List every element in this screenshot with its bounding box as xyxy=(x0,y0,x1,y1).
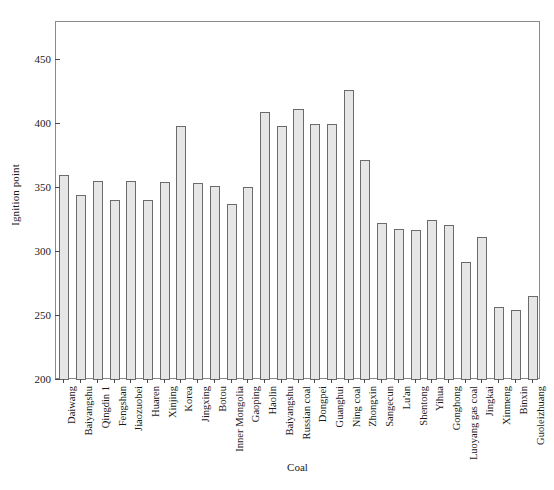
x-tick-mark xyxy=(481,379,482,383)
y-tick-mark xyxy=(55,187,60,188)
x-tick-mark xyxy=(515,379,516,383)
x-tick-mark xyxy=(398,379,399,383)
bar xyxy=(461,262,471,380)
x-tick-mark xyxy=(214,379,215,383)
bar xyxy=(93,181,103,380)
y-tick-label: 350 xyxy=(17,182,51,193)
bar xyxy=(193,183,203,380)
bar xyxy=(227,204,237,380)
x-tick-label: Russian coal xyxy=(302,386,313,439)
bar xyxy=(494,307,504,380)
x-tick-label: Daiwang xyxy=(67,386,78,424)
x-tick-label: Inner Mongolia xyxy=(235,386,246,452)
x-tick-label: Fengshan xyxy=(118,386,129,426)
bar xyxy=(210,186,220,380)
bar xyxy=(160,182,170,380)
y-tick-mark xyxy=(55,251,60,252)
x-tick-label: Xinjing xyxy=(168,386,179,418)
x-tick-label: Qingdin 1 xyxy=(101,386,112,428)
bar xyxy=(477,237,487,380)
y-tick-label: 450 xyxy=(17,54,51,65)
x-tick-mark xyxy=(415,379,416,383)
x-tick-mark xyxy=(448,379,449,383)
x-tick-mark xyxy=(130,379,131,383)
x-axis-title-text: Coal xyxy=(287,461,308,473)
bars-layer xyxy=(56,22,541,380)
x-tick-label: Botou xyxy=(218,386,229,412)
x-tick-label: Shentong xyxy=(419,386,430,426)
x-tick-label: Guanghui xyxy=(335,386,346,427)
x-axis-title: Coal xyxy=(55,461,540,473)
x-tick-mark xyxy=(298,379,299,383)
x-tick-mark xyxy=(348,379,349,383)
x-tick-label: Yihua xyxy=(435,386,446,411)
x-tick-label: Haolin xyxy=(268,386,279,415)
x-tick-label: Baiyangshu xyxy=(285,386,296,436)
bar xyxy=(528,296,538,380)
y-tick-mark xyxy=(55,123,60,124)
bar xyxy=(176,126,186,380)
bar xyxy=(143,200,153,380)
x-tick-mark xyxy=(331,379,332,383)
y-tick-mark xyxy=(55,379,60,380)
x-tick-label: Gonghong xyxy=(452,386,463,430)
x-tick-mark xyxy=(231,379,232,383)
bar-chart: Ignition point 200250300350400450 Daiwan… xyxy=(0,0,554,490)
y-tick-label: 400 xyxy=(17,118,51,129)
x-tick-label: Lu'an xyxy=(402,386,413,409)
bar xyxy=(511,310,521,380)
bar xyxy=(327,124,337,380)
bar xyxy=(260,112,270,381)
x-tick-label: Korea xyxy=(184,386,195,412)
x-tick-mark xyxy=(498,379,499,383)
bar xyxy=(243,187,253,380)
x-tick-label: Zhongxin xyxy=(368,386,379,427)
y-tick-mark xyxy=(55,59,60,60)
y-tick-label: 250 xyxy=(17,310,51,321)
x-tick-mark xyxy=(364,379,365,383)
y-tick-label: 200 xyxy=(17,374,51,385)
bar xyxy=(277,126,287,380)
x-tick-label: Jingkai xyxy=(485,386,496,416)
x-tick-label: Jiaozuobei xyxy=(134,386,145,431)
bar xyxy=(76,195,86,380)
x-tick-mark xyxy=(80,379,81,383)
x-tick-mark xyxy=(381,379,382,383)
bar xyxy=(310,124,320,380)
x-tick-label: Dongpei xyxy=(318,386,329,422)
bar xyxy=(360,160,370,380)
x-tick-mark xyxy=(97,379,98,383)
bar xyxy=(126,181,136,380)
x-tick-label: Huaren xyxy=(151,386,162,417)
x-tick-mark xyxy=(314,379,315,383)
x-tick-label: Jingxing xyxy=(201,386,212,422)
x-tick-label: Sangecun xyxy=(385,386,396,427)
x-tick-label: Xinmeng xyxy=(502,386,513,425)
x-tick-mark xyxy=(264,379,265,383)
y-tick-label: 300 xyxy=(17,246,51,257)
plot-area xyxy=(55,21,540,379)
x-tick-mark xyxy=(465,379,466,383)
bar xyxy=(110,200,120,380)
bar xyxy=(377,223,387,380)
bar xyxy=(293,109,303,380)
x-tick-mark xyxy=(532,379,533,383)
y-axis-ticks: 200250300350400450 xyxy=(0,21,51,379)
x-tick-mark xyxy=(431,379,432,383)
bar xyxy=(411,230,421,380)
x-tick-mark xyxy=(281,379,282,383)
x-tick-mark xyxy=(247,379,248,383)
bar xyxy=(59,175,69,380)
x-tick-label: Binxin xyxy=(519,386,530,415)
bar xyxy=(344,90,354,380)
x-tick-mark xyxy=(164,379,165,383)
x-tick-mark xyxy=(197,379,198,383)
x-tick-mark xyxy=(180,379,181,383)
x-tick-mark xyxy=(63,379,64,383)
x-tick-mark xyxy=(114,379,115,383)
bar xyxy=(444,225,454,380)
x-tick-label: Ning coal xyxy=(352,386,363,427)
x-tick-label: Luoyang gas coal xyxy=(469,386,480,460)
x-tick-label: Gaoping xyxy=(251,386,262,422)
x-tick-label: Guoleizhuang xyxy=(536,386,547,445)
